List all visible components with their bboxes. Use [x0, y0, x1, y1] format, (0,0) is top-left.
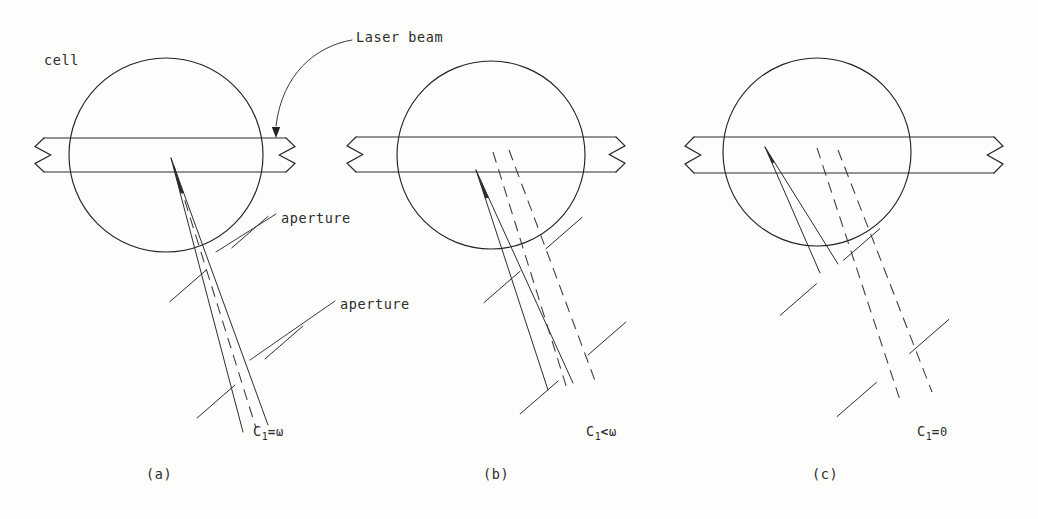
beam-tube-break-right-b: [609, 137, 625, 172]
dashed-ray-a-1: [174, 166, 256, 428]
beam-tube-break-right-a: [279, 138, 295, 172]
beam-tube-break-right-c: [987, 137, 1003, 173]
condition-value-a: ω: [276, 425, 284, 439]
aperture-2-a: [197, 326, 303, 418]
solid-ray-a-1: [171, 158, 243, 432]
beam-tube-break-left-a: [35, 138, 51, 172]
panel-caption-c: (c): [812, 466, 838, 482]
panel-a: [35, 58, 303, 432]
aperture-1-blade-lower-c: [780, 284, 816, 315]
condition-label-a: C1=ω: [253, 423, 284, 442]
diagram-canvas: [0, 0, 1038, 519]
solid-ray-c-2: [765, 147, 838, 264]
aperture-2-blade-upper-a: [265, 326, 303, 359]
laser-beam-arrowhead: [272, 127, 280, 138]
laser-beam-leader: [276, 40, 352, 126]
laser-beam-label: Laser beam: [356, 29, 443, 45]
aperture-1-blade-upper-c: [844, 229, 880, 260]
aperture-2-blade-lower-b: [520, 381, 558, 414]
condition-relation-a: =: [268, 424, 276, 439]
aperture-label-2: aperture: [340, 296, 410, 312]
cell-label: cell: [44, 52, 79, 68]
panel-b: [347, 61, 626, 414]
panel-c: [685, 58, 1003, 417]
condition-label-b: C1<ω: [586, 423, 617, 442]
beam-tube-break-left-c: [685, 137, 701, 173]
aperture-2-blade-upper-b: [588, 322, 626, 355]
condition-value-b: ω: [609, 425, 617, 439]
aperture-1-b: [484, 217, 582, 302]
solid-ray-b-2: [476, 170, 573, 383]
condition-relation-b: <: [601, 424, 609, 439]
panels-group: [35, 58, 1003, 432]
aperture-2-blade-lower-a: [197, 385, 235, 418]
dashed-ray-c-1: [817, 148, 900, 400]
solid-ray-b-1: [476, 170, 548, 390]
solid-ray-c-1: [765, 147, 820, 273]
aperture-label-1: aperture: [281, 210, 351, 226]
condition-relation-c: =: [932, 424, 940, 439]
aperture-1-blade-upper-b: [546, 217, 582, 248]
aperture-1-blade-lower-a: [170, 270, 206, 301]
aperture-2-c: [837, 319, 949, 416]
figure-root: cellLaser beamapertureapertureC1=ω(a)C1<…: [0, 0, 1038, 519]
dashed-ray-b-1: [493, 152, 568, 392]
condition-symbol-a: C: [253, 423, 262, 439]
condition-symbol-b: C: [586, 423, 595, 439]
scatter-apex-wedge-a: [171, 158, 184, 194]
scatter-apex-wedge-c: [765, 147, 774, 163]
aperture-1-c: [780, 229, 880, 316]
cell-circle-c: [723, 58, 911, 246]
scatter-apex-wedge-b: [476, 170, 489, 199]
aperture-2-b: [520, 322, 626, 414]
aperture-leader-1: [216, 214, 276, 252]
beam-tube-break-left-b: [347, 137, 363, 172]
condition-label-c: C1=0: [917, 423, 948, 442]
aperture-leader-2: [250, 301, 335, 360]
condition-value-c: 0: [940, 425, 948, 439]
condition-symbol-c: C: [917, 423, 926, 439]
panel-caption-b: (b): [483, 466, 509, 482]
cell-circle-a: [69, 58, 263, 252]
panel-caption-a: (a): [146, 466, 172, 482]
aperture-2-blade-lower-c: [837, 382, 876, 416]
cell-circle-b: [397, 61, 585, 249]
aperture-2-blade-upper-c: [910, 319, 949, 353]
dashed-ray-b-2: [509, 150, 597, 386]
